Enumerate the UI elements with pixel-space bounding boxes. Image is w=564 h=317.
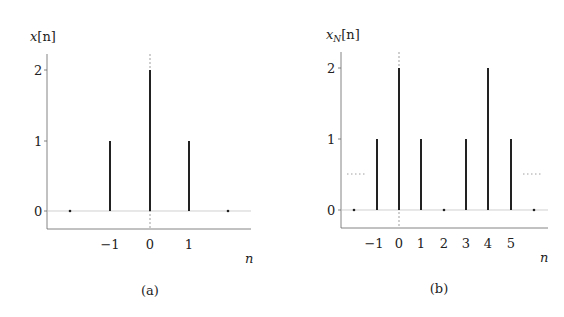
panel-a-ytick-2: 2 [34, 63, 42, 78]
panel-a-ytick-1: 1 [34, 134, 42, 149]
panel-a-caption: (a) [141, 283, 159, 298]
panel-b-ytick-1: 1 [327, 132, 335, 147]
panel-b-xtick: −1 [364, 236, 383, 251]
panel-a-ytick-0: 0 [34, 204, 42, 219]
panel-a-ylabel: x[n] [30, 29, 56, 44]
panel-b-xtick: 1 [417, 236, 425, 251]
panel-b-xtick: 2 [440, 236, 448, 251]
panel-a-xtick: 0 [146, 237, 154, 252]
panel-b-xtick: 3 [462, 236, 470, 251]
panel-b-xtick: 5 [507, 236, 515, 251]
figure: x[n] 2 1 0 −1 0 1 n (a) xN[n] [0, 0, 564, 317]
panel-b-ylabel: xN[n] [326, 27, 360, 44]
panel-b-xlabel: n [540, 250, 548, 265]
panel-a-stem-n2 [227, 210, 230, 213]
panel-b-stem-n6 [533, 209, 536, 212]
panel-a-xtick: 1 [185, 237, 193, 252]
panel-b: xN[n] 2 1 0 −1 0 1 2 3 4 5 n (b) [326, 27, 548, 296]
panel-b-caption: (b) [430, 281, 448, 296]
panel-a: x[n] 2 1 0 −1 0 1 n (a) [30, 29, 253, 298]
panel-b-ytick-2: 2 [327, 61, 335, 76]
panel-a-stem-n-2 [69, 210, 72, 213]
panel-b-stem-n-2 [353, 209, 356, 212]
panel-b-ytick-0: 0 [327, 203, 335, 218]
panel-b-xtick: 4 [484, 236, 492, 251]
panel-b-xtick: 0 [395, 236, 403, 251]
panel-a-xtick: −1 [100, 237, 119, 252]
panel-a-xlabel: n [245, 251, 253, 266]
panel-b-stem-n2 [443, 209, 446, 212]
